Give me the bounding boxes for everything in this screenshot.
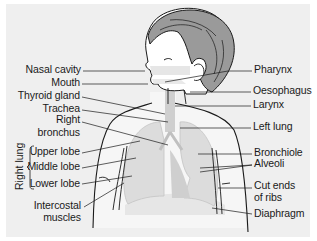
label-mouth: Mouth [8, 77, 80, 88]
label-alveoli: Alveoli [254, 158, 284, 169]
label-cut-ends-2: of ribs [254, 192, 282, 203]
label-left-lung: Left lung [253, 121, 292, 132]
label-intercostal-1: Intercostal [8, 200, 81, 211]
label-right-lung-group: Right lung [13, 143, 25, 190]
label-oesophagus: Oesophagus [253, 85, 312, 96]
label-cut-ends-1: Cut ends [254, 180, 295, 191]
label-larynx: Larynx [253, 99, 284, 110]
head [146, 8, 235, 104]
label-nasal-cavity: Nasal cavity [8, 64, 81, 75]
label-intercostal-2: muscles [8, 212, 81, 223]
label-right-bronchus-2: bronchus [8, 127, 80, 138]
label-right-bronchus-1: Right [8, 114, 80, 125]
label-diaphragm: Diaphragm [254, 208, 304, 219]
label-pharynx: Pharynx [254, 64, 292, 75]
label-thyroid-gland: Thyroid gland [4, 90, 80, 101]
